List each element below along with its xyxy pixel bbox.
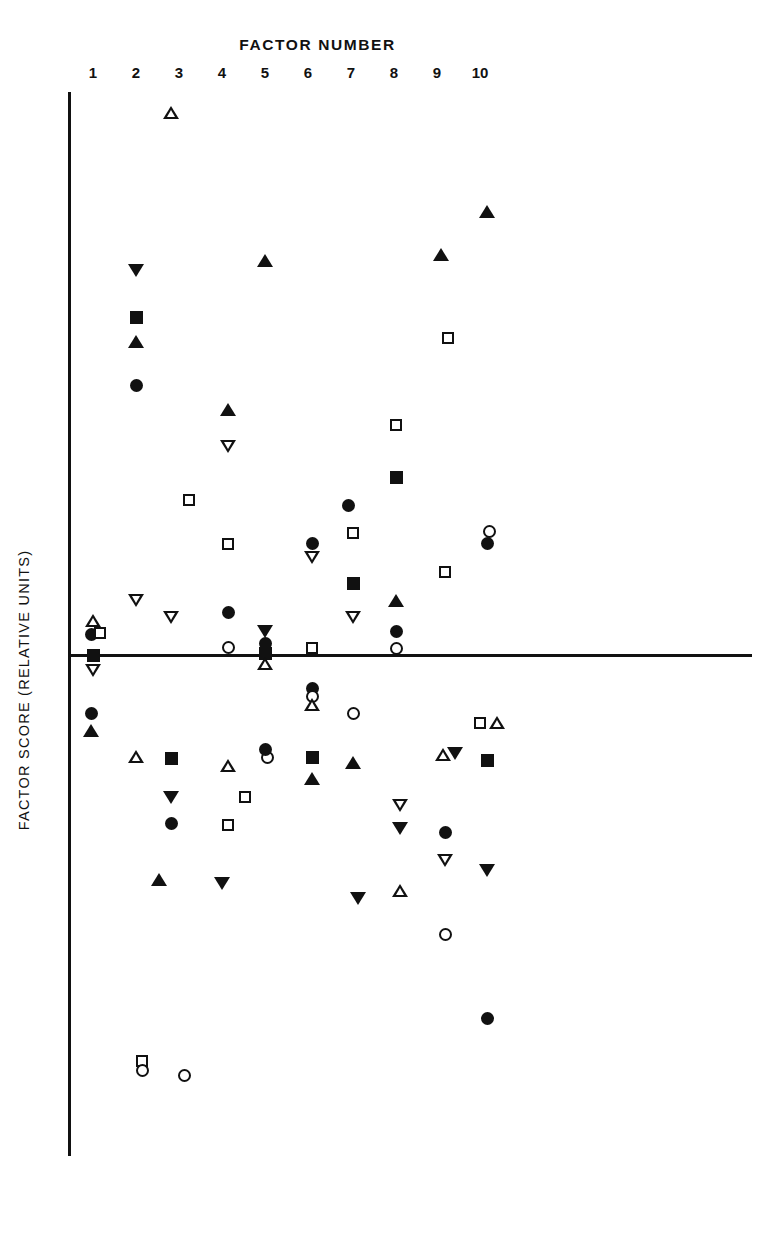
- x-tick-label-5: 5: [245, 64, 285, 81]
- x-tick-label-2: 2: [116, 64, 156, 81]
- x-tick-label-10: 10: [460, 64, 500, 81]
- chart-canvas: FACTOR NUMBER FACTOR SCORE (RELATIVE UNI…: [0, 0, 771, 1238]
- zero-baseline: [68, 654, 752, 657]
- y-axis-label: FACTOR SCORE (RELATIVE UNITS): [16, 370, 50, 1010]
- x-tick-label-6: 6: [288, 64, 328, 81]
- chart-title: FACTOR NUMBER: [0, 36, 703, 54]
- x-tick-label-4: 4: [202, 64, 242, 81]
- x-tick-label-9: 9: [417, 64, 457, 81]
- x-tick-label-3: 3: [159, 64, 199, 81]
- x-tick-label-7: 7: [331, 64, 371, 81]
- y-axis-line: [68, 92, 71, 1156]
- x-tick-label-8: 8: [374, 64, 414, 81]
- x-tick-label-1: 1: [73, 64, 113, 81]
